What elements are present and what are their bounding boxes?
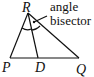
- vertex-label-R: R: [21, 0, 31, 15]
- annotation-angle: angle: [50, 0, 78, 14]
- angle-arc-right: [31, 26, 40, 30]
- annotation-bisector: bisector: [50, 13, 92, 28]
- pointer-dot: [33, 21, 35, 23]
- vertex-label-D: D: [34, 60, 45, 75]
- triangle-diagram: R P D Q angle bisector: [0, 0, 94, 77]
- angle-arc-left: [22, 28, 31, 30]
- annotation-pointer: [34, 16, 47, 22]
- side-RP: [10, 13, 28, 58]
- vertex-label-P: P: [1, 60, 11, 75]
- vertex-label-Q: Q: [76, 62, 86, 77]
